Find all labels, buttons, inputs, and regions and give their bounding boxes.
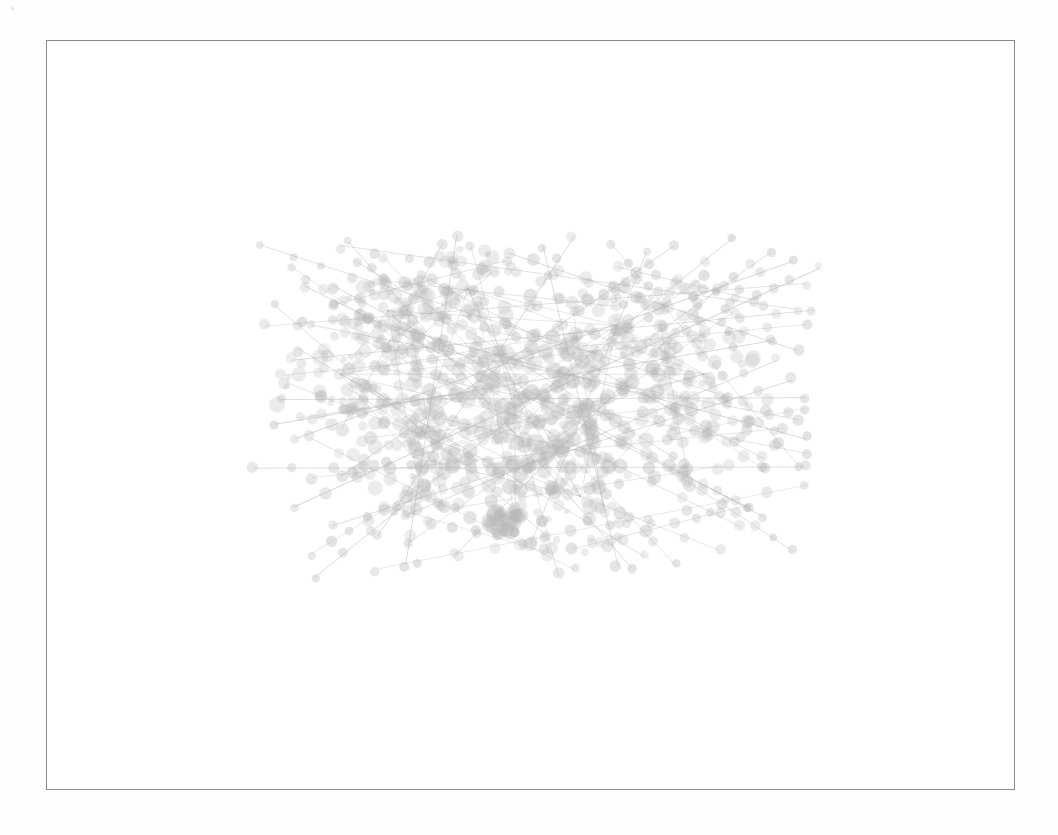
scan-artifact-speck bbox=[11, 7, 14, 10]
page-root bbox=[0, 0, 1058, 835]
network-graph-canvas bbox=[47, 41, 1014, 789]
figure-frame bbox=[46, 40, 1015, 790]
